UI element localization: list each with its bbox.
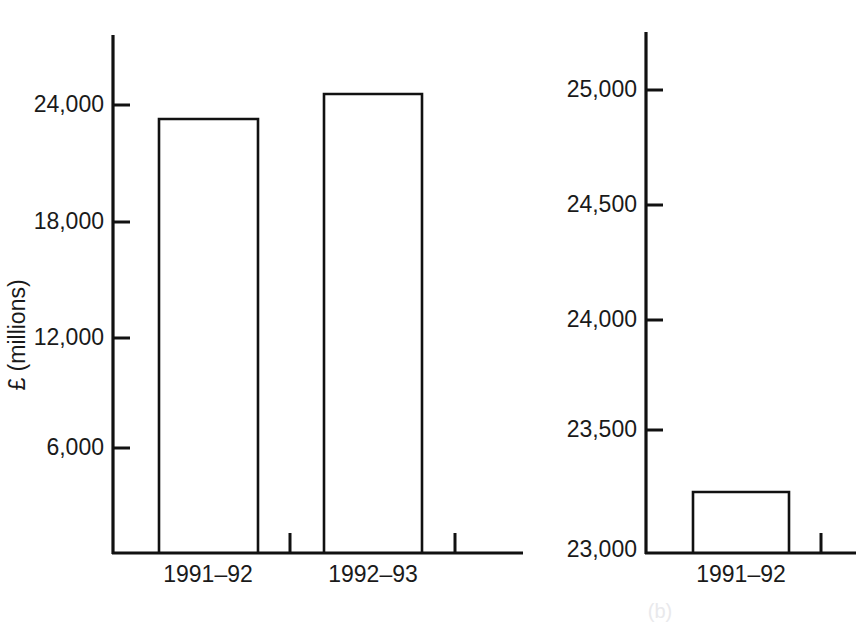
right-ytick-label-25000: 25,000: [567, 76, 637, 102]
bar-1991-92-detail[interactable]: [693, 492, 789, 553]
chart-left-svg: 6,000 12,000 18,000 24,000 £ (millions) …: [0, 0, 540, 622]
chart-panel-left: 6,000 12,000 18,000 24,000 £ (millions) …: [0, 0, 540, 622]
right-ytick-label-24500: 24,500: [567, 191, 637, 217]
left-y-axis-title: £ (millions): [4, 279, 30, 390]
right-ytick-label-24000: 24,000: [567, 306, 637, 332]
right-ytick-label-23000: 23,000: [567, 536, 637, 562]
bar-1992-93[interactable]: [324, 94, 422, 553]
left-xtick-label-1992-93: 1992‒93: [328, 561, 418, 587]
left-ytick-label-24000: 24,000: [34, 91, 104, 117]
right-xtick-label-1991-92: 1991‒92: [696, 561, 786, 587]
left-ytick-label-12000: 12,000: [34, 324, 104, 350]
bar-1991-92[interactable]: [159, 119, 258, 553]
figure-caption-fragment: (b): [648, 600, 672, 622]
chart-panel-right: 23,000 23,500 24,000 24,500 25,000 1991‒…: [540, 0, 856, 622]
right-ytick-label-23500: 23,500: [567, 416, 637, 442]
left-xtick-label-1991-92: 1991‒92: [163, 561, 253, 587]
left-ytick-label-18000: 18,000: [34, 208, 104, 234]
left-ytick-label-6000: 6,000: [46, 434, 104, 460]
figure-root: 6,000 12,000 18,000 24,000 £ (millions) …: [0, 0, 856, 622]
chart-right-svg: 23,000 23,500 24,000 24,500 25,000 1991‒…: [540, 0, 856, 622]
